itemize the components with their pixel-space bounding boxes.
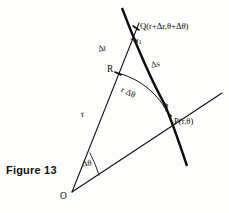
point-label-R: R: [107, 65, 113, 74]
figure-caption: Figure 13: [6, 164, 57, 176]
angle-label-delta-theta: Δθ: [82, 158, 93, 168]
point-label-P: P(r,θ): [174, 117, 193, 126]
angle-label-psi-one: ψ1: [133, 36, 142, 46]
point-label-Q: Q(r+Δr,θ+Δθ): [140, 22, 188, 31]
polar-geometry-drawing: [0, 0, 229, 213]
angle-label-psi: ψ: [163, 101, 168, 110]
point-marker-P: [168, 114, 171, 117]
angle-label-psi-one-subscript: 1: [138, 38, 141, 45]
segment-label-delta-r: Δr: [97, 43, 107, 53]
polar-axis-ray: [72, 93, 222, 192]
segment-label-delta-s: Δs: [150, 59, 160, 69]
point-label-O: O: [60, 192, 67, 201]
figure-13-diagram: Q(r+Δr,θ+Δθ) P(r,θ) R O Δr Δs r r Δθ ψ1 …: [0, 0, 229, 213]
curve-through-P-and-Q: [122, 8, 187, 166]
